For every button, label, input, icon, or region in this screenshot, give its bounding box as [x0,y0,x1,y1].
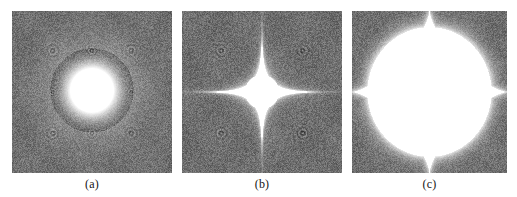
panel-b-canvas [182,11,342,173]
panel-a-image [12,11,172,173]
panel-b-caption: (b) [182,177,342,191]
figure-root: (a) (b) (c) [0,0,517,197]
panel-c-canvas [352,11,507,173]
panel-c-caption: (c) [352,177,507,191]
panel-a-caption: (a) [12,177,172,191]
panel-b-image [182,11,342,173]
panel-c-image [352,11,507,173]
panel-a-canvas [12,11,172,173]
